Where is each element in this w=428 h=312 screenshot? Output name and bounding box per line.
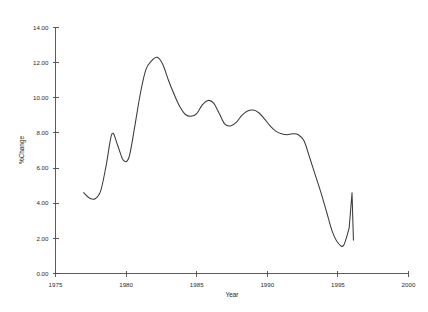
x-tick-label: 1990 [260,281,274,288]
y-tick-label: 6.00 [36,164,49,171]
y-axis-title: %Change [18,136,26,165]
x-tick-label: 2000 [402,281,416,288]
x-tick-label: 1980 [119,281,133,288]
y-tick-label: 10.00 [33,94,49,101]
x-axis: 197519801985199019952000 [49,271,416,288]
y-tick-label: 2.00 [36,235,49,242]
y-tick-label: 14.00 [33,24,49,31]
y-axis: 0.002.004.006.008.0010.0012.0014.00 [33,24,58,277]
line-chart: 0.002.004.006.008.0010.0012.0014.00 1975… [0,0,428,312]
y-tick-group: 0.002.004.006.008.0010.0012.0014.00 [33,24,58,277]
x-tick-label: 1975 [49,281,63,288]
x-tick-label: 1995 [331,281,345,288]
y-tick-label: 0.00 [36,270,49,277]
y-tick-label: 12.00 [33,59,49,66]
y-tick-label: 4.00 [36,199,49,206]
x-tick-label: 1985 [190,281,204,288]
x-axis-title: Year [226,291,240,298]
y-tick-label: 8.00 [36,129,49,136]
chart-container: 0.002.004.006.008.0010.0012.0014.00 1975… [0,0,428,312]
data-series-line [84,57,354,246]
